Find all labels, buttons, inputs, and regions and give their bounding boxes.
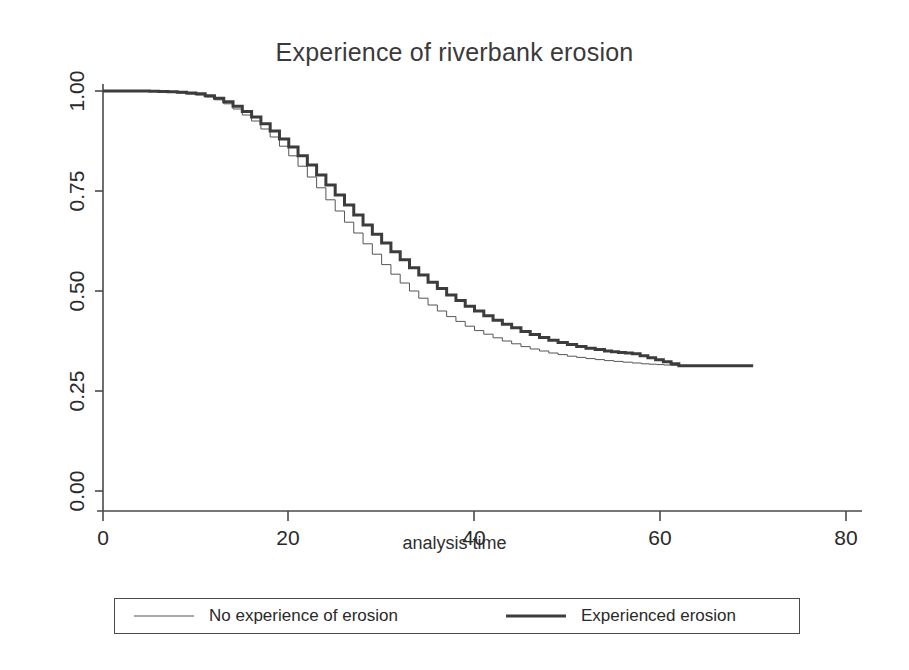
y-tick-label: 0.50 xyxy=(65,271,88,312)
series-line-no-experience xyxy=(103,91,753,366)
legend-label: Experienced erosion xyxy=(581,606,736,626)
legend-item-no-experience: No experience of erosion xyxy=(133,599,398,633)
legend-item-experienced: Experienced erosion xyxy=(505,599,736,633)
y-tick-label: 1.00 xyxy=(65,71,88,112)
y-tick-labels: 1.00 0.75 0.50 0.25 0.00 xyxy=(65,71,88,512)
plot-area: 1.00 0.75 0.50 0.25 0.00 0 20 40 60 80 xyxy=(0,0,909,560)
series-line-experienced xyxy=(103,91,753,366)
chart-page: Experience of riverbank erosion xyxy=(0,0,909,670)
y-tick-label: 0.25 xyxy=(65,371,88,412)
y-tick-label: 0.00 xyxy=(65,471,88,512)
y-tick-label: 0.75 xyxy=(65,171,88,212)
legend-label: No experience of erosion xyxy=(209,606,398,626)
x-tick-marks xyxy=(103,511,846,521)
legend-key-thin-line-icon xyxy=(133,611,195,621)
legend-key-thick-line-icon xyxy=(505,611,567,621)
x-axis-title: analysis time xyxy=(0,533,909,554)
y-tick-marks xyxy=(95,91,103,491)
legend: No experience of erosion Experienced ero… xyxy=(114,598,800,634)
plot-svg: 1.00 0.75 0.50 0.25 0.00 0 20 40 60 80 xyxy=(0,0,909,560)
